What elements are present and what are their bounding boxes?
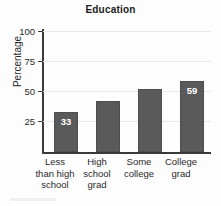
x-label-line: High [73, 156, 121, 168]
chart-title: Education [0, 4, 221, 15]
y-tick-label-50: 50 [9, 86, 35, 97]
scan-artifact [10, 198, 56, 201]
x-label-line: Some [115, 156, 163, 168]
bar-chart: Education Percentage 100 75 50 25 33 59 … [0, 0, 221, 206]
y-tick-label-100: 100 [9, 26, 35, 37]
x-tick-label-college-grad: College grad [157, 156, 205, 179]
x-label-line: Less [31, 156, 79, 168]
plot-area: 33 59 [43, 31, 211, 152]
y-tick-label-25: 25 [9, 116, 35, 127]
x-label-line: school [31, 179, 79, 191]
x-label-line: College [157, 156, 205, 168]
bar-less-than-high-school: 33 [54, 112, 78, 152]
y-tick-label-75: 75 [9, 56, 35, 67]
x-axis-line [43, 152, 211, 154]
x-label-line: grad [73, 179, 121, 191]
bar-high-school-grad [96, 101, 120, 152]
x-label-line: grad [157, 168, 205, 180]
bar-some-college [138, 89, 162, 152]
x-tick-label-less-than-high-school: Less than high school [31, 156, 79, 191]
bar-value-label-3: 59 [181, 85, 203, 96]
bar-college-grad: 59 [180, 81, 204, 152]
gridline-75 [43, 61, 211, 62]
gridline-100 [43, 31, 211, 32]
x-label-line: school [73, 168, 121, 180]
bar-value-label-0: 33 [55, 116, 77, 127]
x-tick-label-high-school-grad: High school grad [73, 156, 121, 191]
x-label-line: than high [31, 168, 79, 180]
x-tick-label-some-college: Some college [115, 156, 163, 179]
x-label-line: college [115, 168, 163, 180]
